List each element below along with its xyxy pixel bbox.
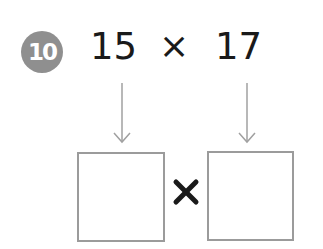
multiply-sign: × (159, 23, 189, 69)
down-arrow-icon (237, 83, 257, 145)
operand-2: 17 (215, 24, 262, 70)
problem-number-badge: 10 (21, 31, 63, 73)
down-arrow-icon (112, 83, 132, 145)
answer-box-right[interactable] (207, 151, 294, 241)
multiplication-expression: 15 × 17 (88, 24, 288, 70)
multiply-icon (172, 178, 200, 206)
operand-1: 15 (90, 24, 137, 70)
answer-box-left[interactable] (77, 152, 165, 242)
problem-number: 10 (28, 39, 56, 65)
